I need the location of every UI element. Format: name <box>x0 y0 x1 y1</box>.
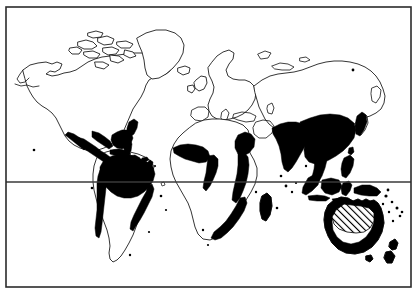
island-dot-comoros <box>255 191 257 193</box>
island-dot-mascarene <box>276 207 279 210</box>
island-dot-indian-2 <box>291 191 293 193</box>
distribution-range-hatched-layer <box>332 204 374 233</box>
world-distribution-map-figure <box>0 0 420 300</box>
island-dot-south-atlantic <box>148 231 150 233</box>
island-dot-falkland <box>129 254 131 256</box>
island-dot-andaman <box>305 165 307 167</box>
island-dot-pacific-7 <box>382 203 384 205</box>
map-canvas <box>0 0 420 300</box>
island-dot-hawaii <box>33 149 36 152</box>
island-dot-fiji <box>401 211 404 214</box>
island-dot-maldives <box>285 167 287 169</box>
island-dot-pacific-5 <box>399 215 402 218</box>
island-dot-solomon <box>387 189 390 192</box>
island-dot-pacific-3 <box>396 207 399 210</box>
island-dot-pacific-2 <box>391 201 394 204</box>
island-dot-pacific-1 <box>384 194 387 197</box>
island-dot-atlantic-1 <box>160 195 163 198</box>
island-dot-pacific-6 <box>392 220 394 222</box>
arctic-islet <box>352 69 355 72</box>
range-australia-interior-hatched <box>332 204 374 233</box>
island-dot-pacific-4 <box>388 211 390 213</box>
island-dot-pacific-central <box>202 229 204 231</box>
island-dot-pacific-south <box>207 244 209 246</box>
island-dot-indian-1 <box>285 185 288 188</box>
island-dot-indian-3 <box>280 175 283 178</box>
island-dot-caribbean-small <box>154 165 156 167</box>
island-dot-atlantic-2 <box>165 209 167 211</box>
island-dot-galapagos <box>91 187 94 190</box>
